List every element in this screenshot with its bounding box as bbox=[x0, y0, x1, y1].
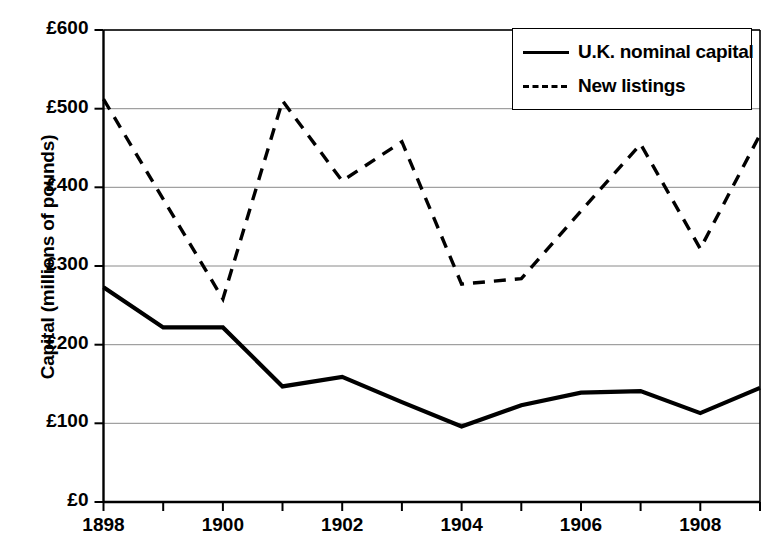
x-tick-label: 1908 bbox=[655, 514, 745, 536]
legend-label-new-listings: New listings bbox=[578, 75, 685, 97]
legend-swatch-dashed-line-icon bbox=[523, 79, 569, 93]
data-series-layer bbox=[104, 99, 761, 426]
legend-entry-uk-nominal-capital: U.K. nominal capital bbox=[523, 37, 754, 67]
y-tick-label: £400 bbox=[9, 174, 89, 196]
x-tick-label: 1898 bbox=[59, 514, 149, 536]
chart-figure: Capital (millions of pounds) £0£100£200£… bbox=[0, 0, 780, 554]
y-tick-label: £200 bbox=[9, 332, 89, 354]
x-tick-label: 1906 bbox=[536, 514, 626, 536]
y-tick-label: £100 bbox=[9, 410, 89, 432]
y-tick-label: £500 bbox=[9, 96, 89, 118]
chart-legend: U.K. nominal capital New listings bbox=[512, 28, 752, 110]
legend-swatch-solid-line-icon bbox=[523, 45, 569, 59]
series-line-u-k-nominal-capital bbox=[104, 287, 761, 426]
legend-label-uk-nominal-capital: U.K. nominal capital bbox=[578, 41, 754, 63]
x-tick-label: 1900 bbox=[178, 514, 268, 536]
legend-entry-new-listings: New listings bbox=[523, 71, 685, 101]
x-tick-label: 1902 bbox=[297, 514, 387, 536]
series-line-new-listings bbox=[104, 99, 761, 299]
y-tick-label: £300 bbox=[9, 253, 89, 275]
x-tick-label: 1904 bbox=[417, 514, 507, 536]
y-tick-label: £600 bbox=[9, 17, 89, 39]
y-tick-label: £0 bbox=[9, 489, 89, 511]
